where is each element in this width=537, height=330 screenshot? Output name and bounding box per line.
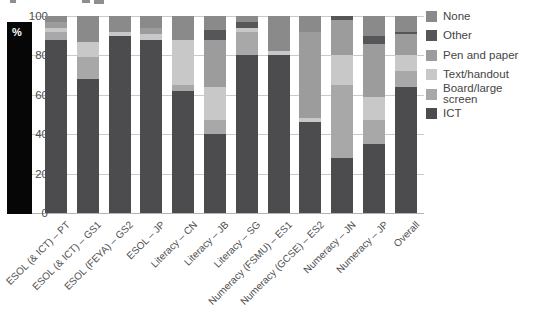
bar-segment-text-handout — [204, 87, 226, 120]
bar-segment-pen-and-paper — [204, 40, 226, 87]
bar-segment-ict — [395, 87, 417, 213]
bar-segment-ict — [140, 40, 162, 213]
legend-label: Board/large screen — [443, 83, 537, 105]
bar — [204, 16, 226, 213]
bar-segment-ict — [363, 144, 385, 213]
bar-segment-ict — [268, 55, 290, 213]
bar-segment-other — [204, 30, 226, 40]
bar — [172, 16, 194, 213]
legend-label: None — [443, 11, 471, 22]
bar-segment-ict — [45, 40, 67, 213]
bar-segment-none — [363, 16, 385, 36]
bar-segment-text-handout — [331, 55, 353, 85]
bar-segment-board-large-screen — [236, 32, 258, 56]
legend-item: Board/large screen — [426, 89, 537, 100]
bar-segment-ict — [172, 91, 194, 213]
bar — [236, 16, 258, 213]
legend-swatch — [426, 11, 437, 22]
bar-segment-other — [363, 36, 385, 44]
stacked-bar-chart: 100806040200 % ESOL (& ICT) – PTESOL (& … — [0, 0, 537, 330]
bar-segment-ict — [236, 55, 258, 213]
legend-swatch — [426, 50, 437, 61]
bar — [363, 16, 385, 213]
bar-segment-board-large-screen — [204, 120, 226, 134]
bar-segment-none — [77, 16, 99, 42]
legend-item: Pen and paper — [426, 50, 537, 61]
legend-item: Other — [426, 30, 537, 41]
bar — [299, 16, 321, 213]
bar — [77, 16, 99, 213]
bar-segment-text-handout — [172, 40, 194, 85]
bar-segment-none — [268, 16, 290, 51]
bar — [331, 16, 353, 213]
legend-label: Pen and paper — [443, 50, 518, 61]
bar-segment-none — [172, 16, 194, 40]
bar-segment-board-large-screen — [363, 120, 385, 144]
cropped-text-artifact — [10, 0, 16, 3]
bar-segment-board-large-screen — [45, 32, 67, 40]
legend-label: ICT — [443, 108, 462, 119]
bar-segment-board-large-screen — [395, 71, 417, 87]
bar — [395, 16, 417, 213]
x-axis-label: Overall — [391, 219, 421, 249]
bar — [45, 16, 67, 213]
legend-item: None — [426, 11, 537, 22]
bar-segment-text-handout — [363, 97, 385, 121]
bar-segment-ict — [299, 122, 321, 213]
cropped-text-artifact — [82, 0, 90, 3]
bar-segment-none — [299, 16, 321, 32]
cropped-text-artifact — [94, 0, 104, 4]
bar — [140, 16, 162, 213]
bar-segment-ict — [331, 158, 353, 213]
bar-segment-ict — [109, 36, 131, 213]
legend: NoneOtherPen and paperText/handoutBoard/… — [426, 11, 537, 127]
bar-segment-pen-and-paper — [395, 34, 417, 56]
bar-segment-board-large-screen — [331, 85, 353, 158]
y-axis-unit-box: % — [7, 22, 32, 214]
legend-item: Text/handout — [426, 69, 537, 80]
bar-segment-pen-and-paper — [299, 32, 321, 119]
y-tick-label: 100 — [8, 10, 48, 22]
legend-swatch — [426, 30, 437, 41]
bar-segment-ict — [204, 134, 226, 213]
legend-label: Other — [443, 30, 472, 41]
bar-segment-board-large-screen — [77, 57, 99, 79]
bar-segment-ict — [77, 79, 99, 213]
bar-segment-none — [395, 16, 417, 32]
bar-segment-text-handout — [395, 55, 417, 71]
bar-segment-text-handout — [77, 42, 99, 58]
bar-segment-none — [109, 16, 131, 32]
bar — [268, 16, 290, 213]
legend-item: ICT — [426, 108, 537, 119]
bar-segment-pen-and-paper — [363, 44, 385, 97]
legend-swatch — [426, 89, 437, 100]
y-axis-unit-label: % — [12, 26, 22, 38]
legend-label: Text/handout — [443, 69, 509, 80]
legend-swatch — [426, 108, 437, 119]
bar-segment-none — [204, 16, 226, 30]
bar-segment-none — [140, 16, 162, 28]
bar — [109, 16, 131, 213]
legend-swatch — [426, 69, 437, 80]
bar-segment-pen-and-paper — [331, 20, 353, 55]
x-axis-line — [32, 213, 424, 214]
